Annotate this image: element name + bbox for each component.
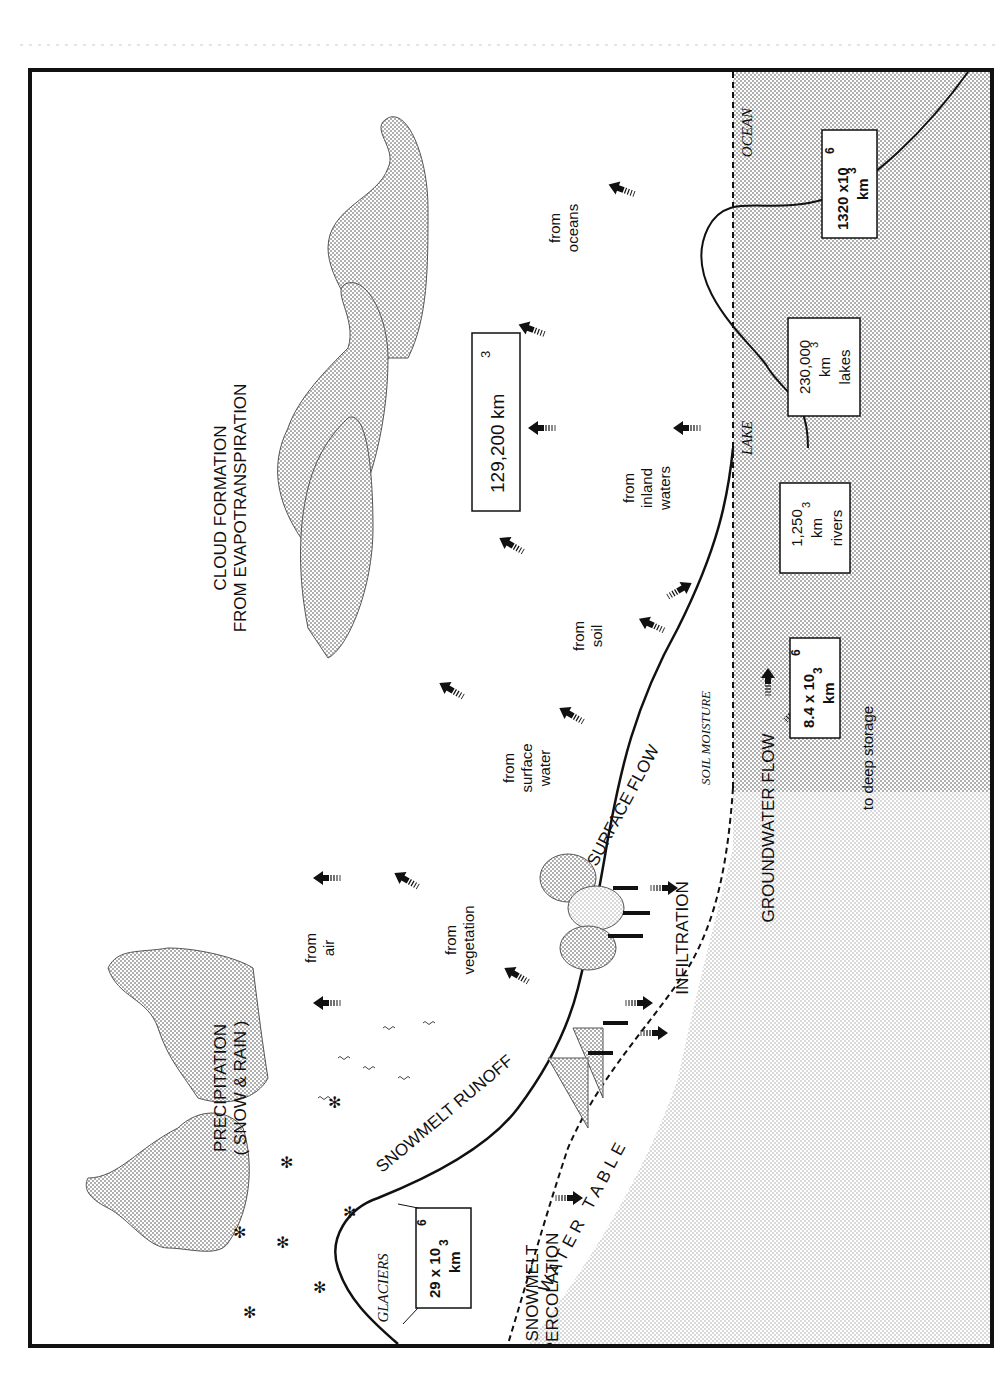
svg-text:soil: soil: [588, 625, 605, 648]
svg-text:km: km: [820, 682, 837, 704]
svg-text:km: km: [816, 357, 833, 377]
svg-text:✻: ✻: [233, 1224, 246, 1241]
ocean-label: OCEAN: [739, 107, 755, 157]
preceding-text-fragment: [20, 0, 1000, 66]
svg-text:✻: ✻: [313, 1279, 326, 1296]
infiltration-label: INFILTRATION: [673, 881, 692, 995]
svg-text:oceans: oceans: [564, 204, 581, 252]
svg-text:from: from: [500, 753, 517, 783]
svg-text:✻: ✻: [276, 1234, 289, 1251]
storage-box-groundwater: 8.4 x 10 6 km 3: [789, 638, 840, 738]
storage-box-rivers: 1,250 km 3 rivers: [780, 483, 850, 573]
svg-text:8.4 x 10: 8.4 x 10: [800, 674, 817, 728]
svg-text:from: from: [442, 925, 459, 955]
svg-text:3: 3: [845, 167, 859, 174]
svg-text:air: air: [320, 940, 337, 957]
svg-text:3: 3: [811, 667, 825, 674]
svg-text:lakes: lakes: [836, 349, 853, 384]
svg-text:6: 6: [415, 1219, 429, 1226]
svg-text:from: from: [570, 621, 587, 651]
svg-text:km: km: [446, 1251, 463, 1273]
svg-text:rivers: rivers: [828, 510, 845, 547]
svg-text:surface: surface: [518, 743, 535, 792]
water-cycle-diagram: OCEAN LAKE SOIL MOISTURE GLACIERS CLOUD …: [28, 68, 994, 1348]
svg-text:6: 6: [789, 649, 803, 656]
svg-text:from: from: [620, 473, 637, 503]
svg-text:1320 x10: 1320 x10: [834, 167, 851, 230]
total-evaporation-value: 129,200 km: [487, 394, 508, 493]
svg-text:3: 3: [800, 502, 812, 508]
glaciers-label: GLACIERS: [375, 1253, 391, 1323]
title-line-2: FROM EVAPOTRANSPIRATION: [231, 384, 250, 633]
svg-text:vegetation: vegetation: [460, 905, 477, 974]
snowmelt-percolation-label: SNOWMELT PERCOLATION: [523, 1233, 562, 1348]
svg-text:water: water: [536, 750, 553, 788]
svg-text:PERCOLATION: PERCOLATION: [543, 1233, 562, 1348]
precipitation-sublabel: ( SNOW & RAIN ): [231, 1020, 250, 1155]
svg-text:✻: ✻: [243, 1304, 256, 1321]
source-soil: from soil: [570, 621, 605, 651]
svg-text:✻: ✻: [328, 1094, 341, 1111]
svg-text:6: 6: [823, 147, 837, 154]
svg-text:from: from: [302, 933, 319, 963]
svg-text:✻: ✻: [343, 1204, 356, 1221]
svg-text:waters: waters: [656, 466, 673, 511]
svg-text:km: km: [854, 178, 871, 200]
soil-moisture-label: SOIL MOISTURE: [698, 691, 713, 785]
svg-text:3: 3: [808, 342, 820, 348]
storage-box-lakes: 230,000 km 3 lakes: [788, 318, 860, 416]
svg-text:3: 3: [437, 1239, 451, 1246]
total-evaporation-sup: 3: [478, 351, 493, 358]
svg-text:km: km: [808, 518, 825, 538]
to-deep-storage-label: to deep storage: [859, 706, 876, 810]
storage-box-ocean: 1320 x10 6 km 3: [822, 130, 877, 238]
groundwater-flow-label: GROUNDWATER FLOW: [759, 734, 778, 923]
svg-text:✻: ✻: [280, 1154, 293, 1171]
svg-text:SNOWMELT: SNOWMELT: [523, 1245, 542, 1342]
title-line-1: CLOUD FORMATION: [211, 426, 230, 591]
precipitation-label: PRECIPITATION: [211, 1024, 230, 1152]
svg-text:29 x 10: 29 x 10: [426, 1248, 443, 1298]
svg-text:from: from: [546, 213, 563, 243]
lake-label: LAKE: [740, 420, 755, 456]
svg-text:inland: inland: [638, 468, 655, 508]
svg-text:1,250: 1,250: [788, 509, 805, 547]
